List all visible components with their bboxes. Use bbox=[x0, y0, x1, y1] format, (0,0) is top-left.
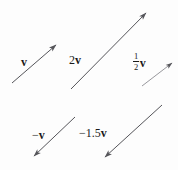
vector-label-neg-v-scalar: − bbox=[32, 128, 39, 142]
vector-label-neg-v: −v bbox=[32, 129, 45, 141]
vectors-canvas bbox=[0, 0, 178, 170]
fraction-denominator: 2 bbox=[133, 63, 139, 72]
vector-label-neg-1-5-v-vector: v bbox=[101, 126, 107, 140]
vector-arrow-v bbox=[12, 45, 56, 83]
vector-label-v-text: v bbox=[21, 55, 27, 69]
vector-label-2v-vector: v bbox=[75, 53, 81, 67]
vector-label-2v: 2v bbox=[69, 54, 81, 66]
vector-arrow-neg-1-5-v bbox=[105, 105, 162, 157]
vector-label-neg-1-5-v: −1.5v bbox=[79, 127, 107, 139]
fraction-one-half: 12 bbox=[133, 52, 139, 71]
vector-label-half-v-vector: v bbox=[140, 56, 146, 70]
vector-label-half-v: 12v bbox=[133, 52, 146, 71]
vector-arrow-half-v bbox=[142, 63, 172, 86]
vector-label-neg-1-5-v-scalar: −1.5 bbox=[79, 126, 101, 140]
vector-scalar-multiples-figure: v 2v 12v −v −1.5v bbox=[0, 0, 178, 170]
fraction-numerator: 1 bbox=[133, 52, 139, 61]
vector-label-neg-v-vector: v bbox=[39, 128, 45, 142]
vector-label-v: v bbox=[21, 56, 27, 68]
